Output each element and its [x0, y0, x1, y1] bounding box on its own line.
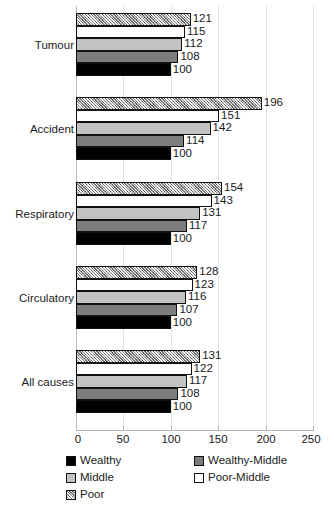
bar-wealthy-middle[interactable]	[76, 388, 178, 401]
bar-value: 142	[213, 123, 232, 135]
legend-label-wealthy: Wealthy	[80, 455, 121, 467]
legend-item-wealthy-middle[interactable]: Wealthy-Middle	[194, 455, 312, 467]
bar-poor-middle[interactable]	[76, 363, 192, 376]
bar-row: 115	[76, 26, 313, 39]
bar-wealthy-middle[interactable]	[76, 220, 187, 233]
legend-row: Poor	[66, 486, 328, 503]
plot-area: 121 115 112 108 100 196	[76, 6, 313, 430]
bar-row: 128	[76, 266, 313, 279]
bar-value: 128	[199, 267, 218, 279]
legend-item-poor[interactable]: Poor	[66, 489, 184, 501]
legend-swatch-wealthy-middle-icon	[194, 456, 204, 466]
x-axis-line	[76, 430, 314, 431]
bar-row: 122	[76, 363, 313, 376]
bar-poor[interactable]	[76, 266, 197, 279]
bar-value: 100	[173, 233, 192, 245]
x-tick-50	[123, 426, 124, 431]
category-label-tumour: Tumour	[2, 40, 74, 52]
legend-label-poor-middle: Poor-Middle	[208, 472, 270, 484]
bar-wealthy[interactable]	[76, 316, 171, 329]
bar-value: 151	[221, 110, 240, 122]
legend-swatch-middle-icon	[66, 473, 76, 483]
bar-group-tumour: 121 115 112 108 100	[76, 13, 313, 76]
bar-group-respiratory: 154 143 131 117 100	[76, 182, 313, 245]
x-tick-label-0: 0	[75, 434, 81, 446]
bar-row: 108	[76, 51, 313, 64]
bar-value: 123	[195, 279, 214, 291]
bar-row: 151	[76, 110, 313, 123]
bar-value: 116	[188, 292, 206, 304]
legend-item-wealthy[interactable]: Wealthy	[66, 455, 184, 467]
bar-poor-middle[interactable]	[76, 279, 193, 292]
bar-poor-middle[interactable]	[76, 26, 185, 39]
bar-value: 100	[173, 317, 192, 329]
legend-label-middle: Middle	[80, 472, 114, 484]
bar-value: 112	[184, 39, 202, 51]
bar-middle[interactable]	[76, 291, 186, 304]
legend-swatch-poor-icon	[66, 490, 76, 500]
bar-value: 115	[187, 26, 205, 38]
bar-row: 100	[76, 63, 313, 76]
bar-row: 117	[76, 220, 313, 233]
bar-row: 114	[76, 135, 313, 148]
x-tick-100	[171, 426, 172, 431]
legend-row: Middle Poor-Middle	[66, 469, 328, 486]
bar-group-circulatory: 128 123 116 107 100	[76, 266, 313, 329]
bar-wealthy[interactable]	[76, 400, 171, 413]
bar-wealthy[interactable]	[76, 63, 171, 76]
gridline-250	[313, 6, 314, 430]
bar-value: 117	[189, 220, 207, 232]
x-tick-150	[218, 426, 219, 431]
x-tick-label-50: 50	[117, 434, 130, 446]
bar-row: 100	[76, 400, 313, 413]
legend-label-wealthy-middle: Wealthy-Middle	[208, 455, 287, 467]
bar-middle[interactable]	[76, 207, 200, 220]
bar-poor[interactable]	[76, 182, 222, 195]
legend-item-middle[interactable]: Middle	[66, 472, 184, 484]
bar-row: 100	[76, 232, 313, 245]
bar-row: 116	[76, 291, 313, 304]
bar-wealthy-middle[interactable]	[76, 51, 178, 64]
bar-middle[interactable]	[76, 122, 211, 135]
bar-row: 108	[76, 388, 313, 401]
legend-swatch-poor-middle-icon	[194, 473, 204, 483]
legend-row: Wealthy Wealthy-Middle	[66, 452, 328, 469]
bar-middle[interactable]	[76, 38, 182, 51]
bar-value: 107	[179, 304, 198, 316]
x-tick-200	[266, 426, 267, 431]
bar-row: 131	[76, 207, 313, 220]
legend-item-poor-middle[interactable]: Poor-Middle	[194, 472, 312, 484]
category-axis: Tumour Accident Respiratory Circulatory …	[0, 0, 74, 424]
category-label-accident: Accident	[2, 124, 74, 136]
bar-chart: Tumour Accident Respiratory Circulatory …	[0, 0, 334, 509]
bar-row: 196	[76, 97, 313, 110]
bar-value: 108	[180, 51, 199, 63]
legend-label-poor: Poor	[80, 489, 104, 501]
bar-poor[interactable]	[76, 97, 262, 110]
x-tick-0	[76, 426, 77, 431]
bar-poor-middle[interactable]	[76, 110, 219, 123]
bar-group-all-causes: 131 122 117 108 100	[76, 350, 313, 413]
bar-row: 100	[76, 147, 313, 160]
bar-row: 131	[76, 350, 313, 363]
bar-value: 100	[173, 401, 192, 413]
bar-poor[interactable]	[76, 13, 191, 26]
bar-value: 131	[202, 208, 221, 220]
bar-middle[interactable]	[76, 375, 187, 388]
bar-poor-middle[interactable]	[76, 195, 212, 208]
bar-wealthy-middle[interactable]	[76, 135, 184, 148]
bar-value: 100	[173, 148, 192, 160]
bar-value: 143	[214, 195, 233, 207]
bar-wealthy[interactable]	[76, 147, 171, 160]
bar-value: 131	[202, 351, 221, 363]
bar-group-accident: 196 151 142 114 100	[76, 97, 313, 160]
bar-poor[interactable]	[76, 350, 200, 363]
x-tick-label-150: 150	[208, 434, 227, 446]
bar-wealthy-middle[interactable]	[76, 304, 177, 317]
bar-wealthy[interactable]	[76, 232, 171, 245]
category-label-all-causes: All causes	[2, 377, 74, 389]
bar-value: 154	[224, 183, 243, 195]
bar-value: 122	[194, 363, 213, 375]
bar-value: 114	[186, 135, 204, 147]
category-label-respiratory: Respiratory	[2, 209, 74, 221]
